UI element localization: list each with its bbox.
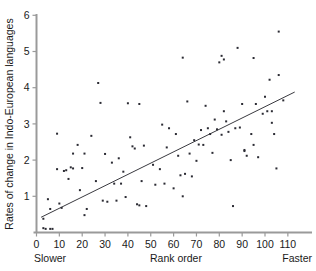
data-point: [111, 162, 113, 164]
data-point: [90, 135, 92, 137]
x-axis-annotation-faster: Faster: [282, 252, 312, 264]
data-point: [168, 127, 170, 129]
data-point: [262, 113, 264, 115]
data-point: [127, 102, 129, 104]
plot-canvas: 1234560102030405060708090100110 SlowerRa…: [0, 0, 316, 271]
data-point: [166, 146, 168, 148]
data-point: [234, 127, 236, 129]
x-tick-label: 80: [213, 238, 225, 250]
data-point: [125, 196, 127, 198]
data-point: [237, 47, 239, 49]
y-tick-label: 4: [24, 81, 30, 93]
data-point: [122, 171, 124, 173]
data-point: [246, 155, 248, 157]
scatter-plot-figure: 1234560102030405060708090100110 SlowerRa…: [0, 0, 316, 271]
data-point: [282, 99, 284, 101]
data-point: [67, 178, 69, 180]
data-point: [145, 205, 147, 207]
data-point: [179, 174, 181, 176]
data-point: [225, 120, 227, 122]
data-point: [138, 204, 140, 206]
data-point: [86, 208, 88, 210]
data-point: [189, 153, 191, 155]
points-group: [42, 31, 284, 230]
x-tick-label: 90: [236, 238, 248, 250]
data-point: [83, 214, 85, 216]
data-point: [102, 200, 104, 202]
data-point: [175, 133, 177, 135]
x-tick-label: 40: [122, 238, 134, 250]
data-point: [61, 207, 63, 209]
y-tick-label: 6: [24, 9, 30, 21]
data-point: [182, 195, 184, 197]
data-point: [138, 103, 140, 105]
data-point: [271, 110, 273, 112]
data-point: [58, 203, 60, 205]
data-point: [202, 144, 204, 146]
x-tick-label: 110: [279, 238, 296, 250]
data-point: [205, 105, 207, 107]
data-point: [211, 152, 213, 154]
data-point: [70, 166, 72, 168]
data-point: [47, 198, 49, 200]
data-point: [250, 133, 252, 135]
data-point: [223, 58, 225, 60]
data-point: [72, 153, 74, 155]
data-point: [186, 100, 188, 102]
data-point: [278, 74, 280, 76]
data-point: [177, 155, 179, 157]
data-point: [207, 127, 209, 129]
data-point: [218, 61, 220, 63]
regression-line: [41, 92, 295, 217]
data-point: [63, 170, 65, 172]
data-point: [195, 160, 197, 162]
data-point: [269, 79, 271, 81]
data-point: [77, 144, 79, 146]
data-point: [115, 200, 117, 202]
data-point: [136, 203, 138, 205]
x-tick-label: 20: [76, 238, 88, 250]
data-point: [221, 134, 223, 136]
data-point: [241, 103, 243, 105]
data-point: [79, 189, 81, 191]
x-tick-label: 60: [168, 238, 180, 250]
x-axis-title: Rank order: [150, 252, 202, 264]
tick-labels-group: 1234560102030405060708090100110: [24, 9, 297, 250]
data-point: [278, 31, 280, 33]
data-point: [253, 144, 255, 146]
data-point: [198, 144, 200, 146]
x-tick-label: 30: [99, 238, 111, 250]
x-tick-label: 0: [34, 238, 40, 250]
x-tick-label: 100: [256, 238, 274, 250]
data-point: [154, 184, 156, 186]
data-point: [45, 228, 47, 230]
data-point: [209, 133, 211, 135]
data-point: [163, 183, 165, 185]
data-point: [255, 103, 257, 105]
data-point: [216, 128, 218, 130]
data-point: [83, 153, 85, 155]
data-point: [191, 175, 193, 177]
data-point: [223, 110, 225, 112]
x-tick-label: 50: [145, 238, 157, 250]
data-point: [104, 153, 106, 155]
data-point: [42, 227, 44, 229]
data-point: [120, 183, 122, 185]
y-axis-title: Rates of change in Indo-European languag…: [3, 18, 15, 229]
data-point: [271, 122, 273, 124]
data-point: [275, 167, 277, 169]
data-point: [221, 55, 223, 57]
trendline-group: [41, 92, 295, 217]
data-point: [232, 205, 234, 207]
data-point: [42, 218, 44, 220]
data-point: [131, 145, 133, 147]
data-point: [161, 124, 163, 126]
data-point: [193, 139, 195, 141]
data-point: [95, 180, 97, 182]
data-point: [182, 57, 184, 59]
data-point: [239, 127, 241, 129]
data-point: [99, 102, 101, 104]
data-point: [141, 180, 143, 182]
data-point: [134, 148, 136, 150]
data-point: [184, 173, 186, 175]
